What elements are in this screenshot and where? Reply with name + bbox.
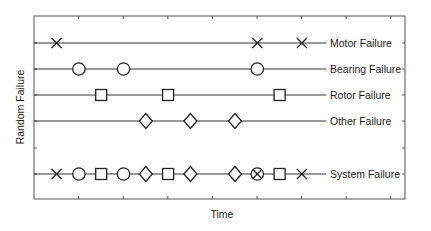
- square-marker: [274, 169, 285, 180]
- circle-shape: [251, 63, 263, 75]
- diamond-shape: [184, 114, 197, 129]
- square-shape: [274, 90, 285, 101]
- series-rows: Motor FailureBearing FailureRotor Failur…: [34, 37, 401, 180]
- square-marker: [96, 169, 107, 180]
- circle-marker: [73, 63, 85, 75]
- diamond-marker: [139, 114, 152, 129]
- diamond-marker: [229, 167, 242, 182]
- diamond-shape: [229, 167, 242, 182]
- square-marker: [274, 90, 285, 101]
- circle-shape: [73, 63, 85, 75]
- square-shape: [96, 169, 107, 180]
- square-marker: [163, 90, 174, 101]
- circle-shape: [73, 168, 85, 180]
- diamond-marker: [229, 114, 242, 129]
- diamond-marker: [184, 114, 197, 129]
- circle-x-marker: [251, 168, 263, 180]
- diamond-marker: [184, 167, 197, 182]
- row-label-bearing-failure: Bearing Failure: [330, 63, 401, 75]
- square-shape: [96, 90, 107, 101]
- diamond-shape: [229, 114, 242, 129]
- series-markers: [52, 38, 307, 182]
- circle-marker: [251, 63, 263, 75]
- y-axis-label: Random Failure: [14, 69, 26, 144]
- failure-timeline-chart: Motor FailureBearing FailureRotor Failur…: [0, 0, 431, 231]
- square-marker: [163, 169, 174, 180]
- circle-marker: [73, 168, 85, 180]
- square-shape: [274, 169, 285, 180]
- circle-marker: [117, 168, 129, 180]
- row-label-motor-failure: Motor Failure: [330, 37, 392, 49]
- circle-shape: [117, 63, 129, 75]
- x-axis-label: Time: [211, 208, 234, 220]
- diamond-marker: [139, 167, 152, 182]
- square-marker: [96, 90, 107, 101]
- square-shape: [163, 90, 174, 101]
- circle-shape: [117, 168, 129, 180]
- row-label-system-failure: System Failure: [330, 168, 400, 180]
- row-label-other-failure: Other Failure: [330, 115, 391, 127]
- diamond-shape: [139, 167, 152, 182]
- diamond-shape: [139, 114, 152, 129]
- circle-marker: [117, 63, 129, 75]
- diamond-shape: [184, 167, 197, 182]
- row-label-rotor-failure: Rotor Failure: [330, 89, 391, 101]
- square-shape: [163, 169, 174, 180]
